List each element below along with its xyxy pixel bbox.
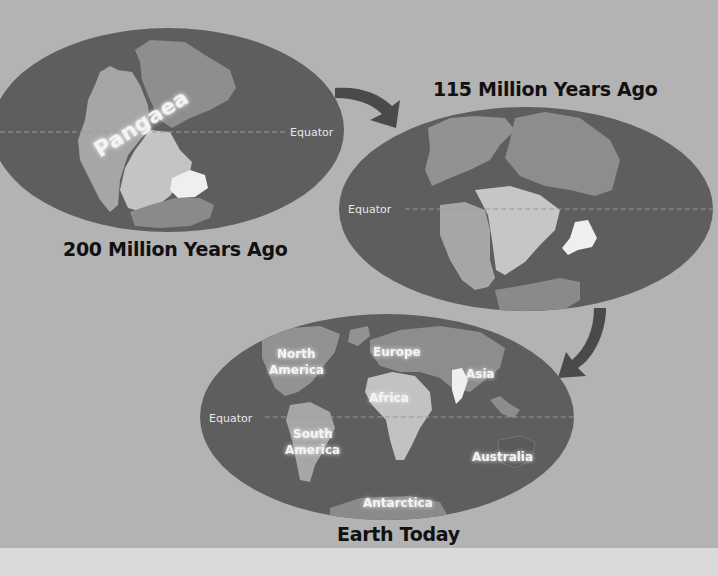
- continental-drift-diagram: Equator Pangaea Equator: [0, 0, 718, 576]
- cretaceous-map: Equator: [339, 107, 713, 312]
- equator-label: Equator: [348, 203, 392, 216]
- arrow-2-icon: [558, 308, 606, 378]
- panel-title-200-mya: 200 Million Years Ago: [63, 238, 288, 260]
- continent-label-north-america-2: America: [269, 363, 324, 377]
- continent-label-north-america-1: North: [277, 347, 315, 361]
- continent-label-africa: Africa: [369, 391, 409, 405]
- continent-label-australia: Australia: [472, 450, 533, 464]
- panel-title-earth-today: Earth Today: [337, 523, 460, 545]
- arrow-1-icon: [335, 88, 400, 128]
- equator-label: Equator: [209, 412, 253, 425]
- panel-title-115-mya: 115 Million Years Ago: [433, 78, 658, 100]
- continent-label-south-america-1: South: [293, 427, 333, 441]
- continent-label-asia: Asia: [466, 367, 495, 381]
- equator-label: Equator: [290, 126, 334, 139]
- continent-label-antarctica: Antarctica: [363, 496, 433, 510]
- continent-label-europe: Europe: [373, 345, 421, 359]
- earth-today-map: Equator North America Europe Asia Africa…: [200, 314, 574, 520]
- continent-label-south-america-2: America: [285, 443, 340, 457]
- pangaea-map: Equator Pangaea: [0, 28, 344, 232]
